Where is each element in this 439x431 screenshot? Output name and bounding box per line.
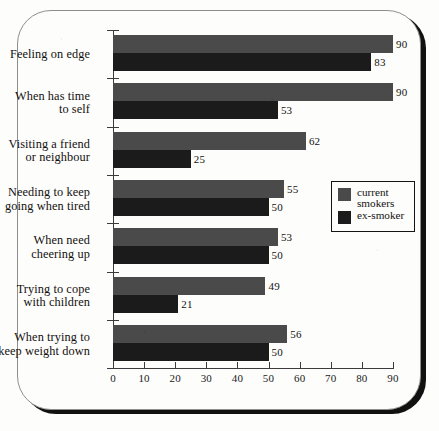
- category-label: Needing to keepgoing when tired: [0, 186, 90, 213]
- x-axis-tick-label: 80: [350, 372, 374, 384]
- chart-page: 0102030405060708090 Feeling on edgeWhen …: [0, 0, 439, 431]
- bar-value-label: 90: [396, 83, 407, 101]
- bar-current-smokers: [113, 35, 393, 53]
- x-axis-tick: [331, 362, 332, 369]
- legend-item-ex-smoker: ex-smoker: [338, 210, 404, 224]
- legend-swatch-current-smokers: [338, 188, 351, 201]
- bar-value-label: 50: [272, 343, 283, 361]
- bar-ex-smoker: [113, 53, 371, 71]
- legend-item-current-smokers: current smokers: [338, 187, 394, 210]
- y-axis-tick: [107, 223, 119, 224]
- bar-current-smokers: [113, 277, 265, 295]
- bar-value-label: 21: [181, 295, 192, 313]
- x-axis-tick-label: 30: [194, 372, 218, 384]
- y-axis-tick: [107, 78, 119, 79]
- y-axis-tick: [107, 272, 119, 273]
- x-axis-tick: [300, 362, 301, 369]
- category-label: When needcheering up: [0, 234, 90, 261]
- x-axis-tick-label: 60: [288, 372, 312, 384]
- bar-value-label: 53: [281, 101, 292, 119]
- y-axis-tick: [107, 127, 119, 128]
- bar-ex-smoker: [113, 295, 178, 313]
- bar-value-label: 49: [268, 277, 279, 295]
- x-axis-tick-label: 20: [163, 372, 187, 384]
- bar-ex-smoker: [113, 101, 278, 119]
- category-label: Feeling on edge: [0, 48, 90, 62]
- legend-label-current-smokers: current smokers: [357, 187, 394, 210]
- x-axis-tick: [144, 362, 145, 369]
- legend-swatch-ex-smoker: [338, 211, 351, 224]
- x-axis-tick: [175, 362, 176, 369]
- bar-value-label: 50: [272, 246, 283, 264]
- category-label: When has timeto self: [0, 90, 90, 117]
- x-axis-tick: [206, 362, 207, 369]
- bar-value-label: 62: [309, 132, 320, 150]
- bar-value-label: 83: [374, 53, 385, 71]
- y-axis-tick: [107, 320, 119, 321]
- bar-value-label: 55: [287, 180, 298, 198]
- x-axis-line: [113, 368, 393, 369]
- bar-current-smokers: [113, 83, 393, 101]
- bar-current-smokers: [113, 228, 278, 246]
- bar-value-label: 56: [290, 325, 301, 343]
- bar-value-label: 90: [396, 35, 407, 53]
- legend-label-ex-smoker: ex-smoker: [357, 210, 404, 221]
- category-label: When trying tokeep weight down: [0, 331, 90, 358]
- bar-value-label: 50: [272, 198, 283, 216]
- x-axis-tick-label: 10: [132, 372, 156, 384]
- x-axis-tick-label: 90: [381, 372, 405, 384]
- x-axis-tick-label: 0: [101, 372, 125, 384]
- x-axis-tick: [362, 362, 363, 369]
- bar-ex-smoker: [113, 150, 191, 168]
- x-axis-tick-label: 40: [225, 372, 249, 384]
- bar-current-smokers: [113, 132, 306, 150]
- bar-current-smokers: [113, 325, 287, 343]
- bar-value-label: 25: [194, 150, 205, 168]
- bar-ex-smoker: [113, 198, 269, 216]
- x-axis-tick: [113, 362, 114, 369]
- bar-current-smokers: [113, 180, 284, 198]
- y-axis-tick: [107, 175, 119, 176]
- x-axis-tick: [393, 362, 394, 369]
- bar-ex-smoker: [113, 343, 269, 361]
- x-axis-tick-label: 70: [319, 372, 343, 384]
- bar-ex-smoker: [113, 246, 269, 264]
- bar-value-label: 53: [281, 228, 292, 246]
- category-label: Trying to copewith children: [0, 283, 90, 310]
- category-label: Visiting a friendor neighbour: [0, 138, 90, 165]
- bar-chart: 0102030405060708090 Feeling on edgeWhen …: [0, 0, 439, 431]
- x-axis-tick-label: 50: [257, 372, 281, 384]
- y-axis-tick: [107, 30, 119, 31]
- x-axis-tick: [237, 362, 238, 369]
- x-axis-tick: [269, 362, 270, 369]
- chart-legend: current smokers ex-smoker: [331, 181, 415, 232]
